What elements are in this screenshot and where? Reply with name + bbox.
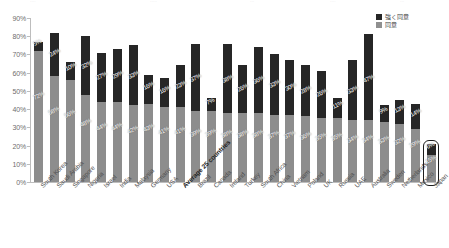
- bar-column[interactable]: [129, 45, 138, 182]
- bar-column[interactable]: [301, 65, 310, 182]
- chart-legend: 強く同意 同意: [376, 14, 409, 28]
- bar-segment-agree: [129, 105, 138, 182]
- legend-swatch-agree: [376, 22, 382, 28]
- bar-column[interactable]: [144, 75, 153, 182]
- legend-swatch-strongly-agree: [376, 14, 382, 20]
- bar-column[interactable]: [176, 65, 185, 182]
- legend-label-agree: 同意: [385, 22, 397, 28]
- bar-column[interactable]: [364, 34, 373, 182]
- y-tick-mark: [27, 127, 30, 128]
- bar-segment-agree: [176, 107, 185, 182]
- bar-segment-agree: [34, 51, 43, 182]
- bar-column[interactable]: [34, 42, 43, 182]
- bar-segment-strongly-agree: [34, 42, 43, 51]
- bar-segment-strongly-agree: [223, 44, 232, 113]
- bar-segment-strongly-agree: [380, 105, 389, 121]
- bar-segment-strongly-agree: [254, 47, 263, 113]
- bar-column[interactable]: [317, 71, 326, 182]
- cropped-text-fragment: ....: [30, 0, 36, 3]
- y-tick-label: 60%: [13, 69, 26, 76]
- y-tick-mark: [27, 164, 30, 165]
- y-tick-mark: [27, 73, 30, 74]
- bar-segment-agree: [207, 111, 216, 182]
- bar-column[interactable]: [81, 36, 90, 182]
- japan-highlight-box: [423, 140, 439, 186]
- bar-segment-strongly-agree: [364, 34, 373, 120]
- bar-column[interactable]: [50, 33, 59, 182]
- y-tick-label: 30%: [13, 124, 26, 131]
- bar-column[interactable]: [97, 53, 106, 182]
- bar-column[interactable]: [223, 44, 232, 182]
- y-tick-label: 90%: [13, 15, 26, 22]
- y-tick-mark: [27, 91, 30, 92]
- bar-segment-strongly-agree: [348, 60, 357, 120]
- bar-segment-strongly-agree: [113, 49, 122, 102]
- bar-segment-agree: [333, 118, 342, 182]
- bar-segment-strongly-agree: [129, 45, 138, 105]
- cropped-header-row: ...................: [0, 0, 441, 9]
- y-tick-label: 10%: [13, 160, 26, 167]
- bar-column[interactable]: [191, 44, 200, 182]
- y-tick-label: 0%: [16, 179, 26, 186]
- y-tick-mark: [27, 109, 30, 110]
- cropped-text-fragment: ...: [250, 0, 254, 3]
- bar-column[interactable]: [333, 98, 342, 182]
- plot-area: 5%72%24%58%10%56%32%48%27%44%29%44%33%42…: [31, 18, 439, 182]
- bar-segment-strongly-agree: [176, 65, 185, 107]
- cropped-text-fragment: ....: [330, 0, 336, 3]
- cropped-text-fragment: ...: [400, 0, 404, 3]
- bar-segment-agree: [113, 102, 122, 182]
- bar-segment-strongly-agree: [66, 62, 75, 80]
- bar-column[interactable]: [238, 65, 247, 182]
- bar-segment-strongly-agree: [395, 100, 404, 124]
- bar-segment-strongly-agree: [191, 44, 200, 111]
- bar-segment-strongly-agree: [207, 98, 216, 111]
- bar-segment-strongly-agree: [238, 65, 247, 112]
- bar-segment-strongly-agree: [97, 53, 106, 102]
- legend-item-strongly-agree: 強く同意: [376, 14, 409, 20]
- y-tick-label: 70%: [13, 51, 26, 58]
- y-tick-mark: [27, 36, 30, 37]
- legend-item-agree: 同意: [376, 22, 409, 28]
- bar-column[interactable]: [285, 60, 294, 182]
- bar-segment-strongly-agree: [317, 71, 326, 118]
- cropped-text-fragment: .....: [150, 0, 157, 3]
- bar-segment-strongly-agree: [81, 36, 90, 94]
- y-tick-label: 40%: [13, 106, 26, 113]
- y-tick-mark: [27, 146, 30, 147]
- bar-segment-strongly-agree: [50, 33, 59, 77]
- bar-segment-strongly-agree: [144, 75, 153, 104]
- bar-column[interactable]: [207, 98, 216, 182]
- bar-segment-strongly-agree: [301, 65, 310, 116]
- bar-segment-strongly-agree: [333, 98, 342, 118]
- bar-segment-strongly-agree: [411, 104, 420, 130]
- bar-segment-agree: [364, 120, 373, 182]
- y-tick-label: 20%: [13, 142, 26, 149]
- y-tick-label: 80%: [13, 33, 26, 40]
- bar-segment-strongly-agree: [270, 54, 279, 114]
- legend-label-strongly-agree: 強く同意: [385, 14, 409, 20]
- y-tick-mark: [27, 18, 30, 19]
- y-tick-mark: [27, 54, 30, 55]
- bar-segment-strongly-agree: [285, 60, 294, 115]
- bar-column[interactable]: [270, 54, 279, 182]
- bar-column[interactable]: [254, 47, 263, 182]
- x-axis-labels: South KoreaSaudi ArabiaSingaporeNigeriaI…: [31, 184, 439, 246]
- y-tick-label: 50%: [13, 87, 26, 94]
- y-axis-labels: 0%10%20%30%40%50%60%70%80%90%: [0, 18, 26, 182]
- bar-column[interactable]: [113, 49, 122, 182]
- bar-column[interactable]: [348, 60, 357, 182]
- bar-segment-strongly-agree: [160, 78, 169, 107]
